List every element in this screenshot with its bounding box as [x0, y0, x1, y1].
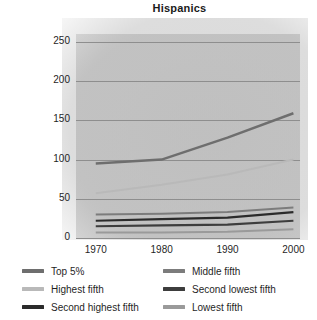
series-line: [96, 229, 294, 232]
legend-label: Middle fifth: [192, 266, 240, 277]
legend-swatch: [22, 287, 44, 291]
series-lines: [76, 34, 300, 238]
chart-title-text: Hispanics: [153, 2, 207, 14]
series-line: [96, 221, 294, 226]
x-tick-label: 1970: [76, 245, 116, 255]
legend-item[interactable]: Second lowest fifth: [163, 282, 276, 296]
chart-figure: Hispanics Mean income (in 2000 CPI adjus…: [0, 0, 317, 320]
series-line: [96, 207, 294, 214]
legend-label: Second highest fifth: [51, 302, 139, 313]
chart-legend: Top 5%Highest fifthSecond highest fifthM…: [22, 264, 312, 316]
legend-swatch: [163, 269, 185, 273]
y-tick-label: 150: [30, 114, 70, 124]
y-tick-label: 250: [30, 36, 70, 46]
x-tick-label: 2000: [273, 245, 313, 255]
y-tick-label: 0: [30, 232, 70, 242]
legend-swatch: [163, 305, 185, 309]
y-tick-label: 50: [30, 193, 70, 203]
legend-swatch: [22, 269, 44, 273]
legend-item[interactable]: Lowest fifth: [163, 300, 243, 314]
series-line: [96, 113, 294, 163]
legend-label: Top 5%: [51, 266, 84, 277]
y-tick-label: 200: [30, 75, 70, 85]
legend-swatch: [163, 287, 185, 291]
y-tick-label: 100: [30, 154, 70, 164]
series-line: [96, 160, 294, 194]
legend-item[interactable]: Middle fifth: [163, 264, 240, 278]
legend-label: Lowest fifth: [192, 302, 243, 313]
plot-area: [76, 34, 300, 238]
legend-label: Highest fifth: [51, 284, 104, 295]
x-tick-label: 1990: [208, 245, 248, 255]
x-tick-label: 1980: [142, 245, 182, 255]
legend-item[interactable]: Top 5%: [22, 264, 84, 278]
legend-item[interactable]: Highest fifth: [22, 282, 104, 296]
x-axis-line: [76, 238, 300, 239]
legend-item[interactable]: Second highest fifth: [22, 300, 139, 314]
legend-swatch: [22, 305, 44, 309]
chart-title: Hispanics: [0, 2, 317, 14]
legend-label: Second lowest fifth: [192, 284, 276, 295]
